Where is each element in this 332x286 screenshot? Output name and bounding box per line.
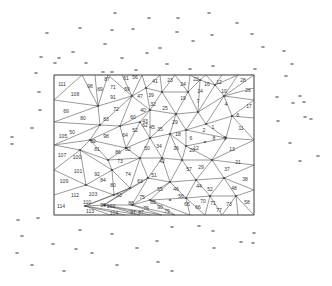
triangle-label: 8 — [213, 135, 216, 141]
mesh-edge — [206, 116, 232, 124]
mesh-edge — [54, 100, 98, 106]
mesh-edge — [54, 122, 100, 125]
mesh-edge — [224, 178, 254, 190]
triangle-label: 86 — [128, 200, 134, 206]
triangle-label: 64 — [122, 132, 128, 138]
triangle-label: 66 — [195, 204, 201, 210]
triangle-label: 91 — [110, 94, 116, 100]
mesh-node — [211, 159, 213, 160]
triangle-label: 52 — [132, 127, 138, 133]
mesh-edge — [176, 112, 198, 114]
mesh-edge — [170, 180, 196, 182]
triangle-label: 14 — [197, 88, 203, 94]
mesh-edge — [150, 134, 170, 138]
triangle-label: 92 — [94, 171, 100, 177]
triangle-label: 81 — [94, 146, 100, 152]
triangle-label: 103 — [89, 191, 98, 197]
mesh-edge — [54, 106, 98, 122]
mesh-edge — [160, 75, 162, 92]
triangle-label: 58 — [244, 199, 250, 205]
triangle-label: 45 — [149, 124, 155, 130]
triangle-label: 38 — [242, 176, 248, 182]
triangle-label: 11 — [238, 125, 243, 131]
mesh-edge — [162, 134, 170, 158]
mesh-node — [84, 205, 86, 206]
triangle-label: 46 — [173, 186, 179, 192]
triangle-label: 34 — [156, 143, 162, 149]
mesh-node — [181, 159, 183, 160]
triangle-label: 59 — [124, 86, 130, 92]
mesh-edge — [98, 106, 100, 125]
triangle-label: 80 — [110, 182, 116, 188]
mesh-node — [145, 87, 147, 88]
triangle-label: 12 — [193, 145, 199, 151]
triangle-label: 50 — [144, 145, 150, 151]
triangle-label: 48 — [231, 185, 237, 191]
triangle-label: 53 — [116, 192, 122, 198]
mesh-edge — [198, 80, 200, 112]
triangle-label: 83 — [103, 116, 109, 122]
mesh-node — [187, 91, 189, 92]
mesh-node — [97, 105, 99, 106]
triangle-label: 6 — [190, 135, 193, 141]
mesh-edge — [186, 112, 198, 130]
mesh-node — [119, 125, 121, 126]
mesh-edge — [206, 96, 224, 124]
triangle-label: 28 — [240, 77, 246, 83]
triangle-label: 113 — [86, 208, 94, 214]
triangle-label: 55 — [157, 186, 163, 192]
triangle-label: 5 — [224, 135, 227, 141]
triangle-label: 71 — [110, 84, 116, 90]
triangle-label: 74 — [125, 171, 131, 177]
triangle-label: 26 — [245, 87, 251, 93]
triangle-label: 110 — [83, 199, 91, 205]
mesh-node — [204, 141, 206, 142]
triangle-label: 57 — [186, 166, 192, 172]
triangle-label: 13 — [229, 146, 235, 152]
mesh-edge — [198, 112, 206, 124]
mesh-node — [195, 179, 197, 180]
mesh-edge — [54, 145, 80, 150]
triangle-label: 47 — [137, 93, 143, 99]
mesh-edge — [198, 96, 224, 112]
mesh-node — [169, 199, 171, 200]
triangle-label: 69 — [63, 108, 69, 114]
mesh-edge — [212, 160, 254, 165]
mesh-node — [231, 115, 233, 116]
mesh-edge — [182, 146, 186, 160]
triangle-label: 17 — [246, 103, 252, 109]
mesh-edge — [112, 158, 140, 170]
triangle-label: 71 — [210, 200, 216, 206]
triangle-label: 73 — [226, 201, 232, 207]
triangle-label: 63 — [137, 178, 143, 184]
mesh-edge — [236, 196, 238, 215]
triangle-label: 29 — [172, 119, 178, 125]
triangle-label: 24 — [180, 81, 186, 87]
triangle-label: 104 — [110, 210, 119, 216]
triangle-label: 23 — [167, 77, 173, 83]
triangle-label: 10 — [221, 88, 227, 94]
triangle-label: 109 — [60, 178, 69, 184]
mesh-node — [85, 184, 87, 185]
triangle-label: 36 — [173, 145, 179, 151]
triangle-label: 39 — [148, 92, 154, 98]
triangle-label: 40 — [140, 107, 146, 113]
mesh-node — [205, 123, 207, 124]
mesh-edge — [120, 96, 132, 126]
mesh-edge — [236, 190, 254, 196]
mesh-edge — [100, 125, 120, 126]
triangle-label: 51 — [151, 172, 157, 178]
mesh-edge — [54, 185, 86, 195]
triangle-label: 100 — [73, 154, 82, 160]
triangle-label: 112 — [71, 192, 79, 198]
mesh-node — [175, 113, 177, 114]
mesh-node — [79, 149, 81, 150]
triangle-label: 79 — [164, 208, 170, 214]
triangle-label: 111 — [58, 81, 66, 87]
triangle-label: 12 — [216, 79, 222, 85]
mesh-node — [235, 195, 237, 196]
mesh-edge — [148, 178, 170, 182]
outer-point-markers — [10, 13, 319, 271]
triangle-label: 60 — [130, 114, 136, 120]
mesh-node — [169, 133, 171, 134]
